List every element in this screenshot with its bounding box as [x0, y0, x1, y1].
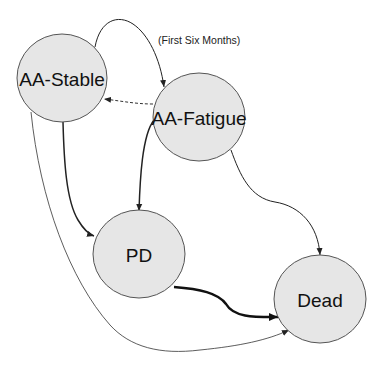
node-label-aa-stable: AA-Stable: [19, 69, 105, 90]
state-diagram: AA-Stable AA-Fatigue PD Dead (First Six …: [0, 0, 385, 373]
node-label-pd: PD: [126, 245, 152, 266]
edge-aafatigue-to-aastable-dashed: [104, 99, 153, 104]
edge-aafatigue-to-pd: [139, 120, 154, 211]
edge-aastable-to-pd: [63, 122, 94, 236]
node-label-dead: Dead: [297, 290, 342, 311]
node-pd: PD: [93, 210, 185, 298]
edge-label-first-six-months: (First Six Months): [158, 34, 240, 46]
edge-aafatigue-to-dead: [231, 150, 320, 255]
node-aa-fatigue: AA-Fatigue: [151, 73, 246, 161]
node-aa-stable: AA-Stable: [17, 34, 107, 122]
node-dead: Dead: [274, 255, 366, 343]
node-label-aa-fatigue: AA-Fatigue: [151, 108, 246, 129]
edge-pd-to-dead: [174, 287, 278, 317]
